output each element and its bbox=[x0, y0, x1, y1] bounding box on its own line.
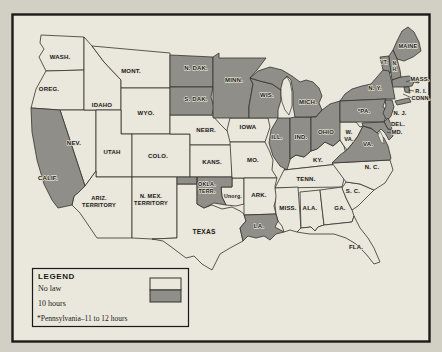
label-nh: N.H. bbox=[392, 61, 397, 72]
state-nmex bbox=[132, 177, 177, 239]
legend-swatch-10-hours bbox=[150, 290, 181, 302]
book-page: WASH.OREG.CALIF.NEV.IDAHOMONT.WYO.UTAHCO… bbox=[0, 0, 442, 352]
label-calif: CALIF. bbox=[38, 175, 58, 181]
label-kans: KANS. bbox=[202, 159, 222, 165]
label-sc: S. C. bbox=[346, 188, 360, 194]
label-mont: MONT. bbox=[121, 68, 141, 74]
legend-item-no-law: No law bbox=[38, 284, 62, 293]
legend-title: LEGEND bbox=[38, 272, 75, 281]
label-conn: CONN. bbox=[411, 95, 430, 101]
state-iowa bbox=[227, 118, 270, 142]
label-miss: MISS. bbox=[279, 205, 296, 211]
label-unorg: Unorg. bbox=[224, 193, 242, 199]
label-okla: OKLA.TERR. bbox=[198, 181, 216, 194]
label-ny: N. Y. bbox=[368, 85, 382, 91]
label-wyo: WYO. bbox=[138, 110, 155, 116]
label-ala: ALA. bbox=[303, 205, 318, 211]
label-mich: MICH. bbox=[299, 99, 317, 105]
label-mo: MO. bbox=[247, 157, 259, 163]
label-vt: VT. bbox=[380, 60, 388, 65]
label-nev: NEV. bbox=[67, 140, 81, 146]
label-ill: ILL. bbox=[271, 134, 283, 140]
label-oreg: OREG. bbox=[39, 86, 59, 92]
label-ga: GA. bbox=[334, 205, 345, 211]
label-wash: WASH. bbox=[50, 54, 71, 60]
label-nc: N. C. bbox=[365, 164, 380, 170]
label-maine: MAINE bbox=[398, 43, 417, 49]
legend-footnote-pennsylvania: *Pennsylvania–11 to 12 hours bbox=[37, 314, 127, 323]
label-ri: R. I. bbox=[415, 88, 427, 94]
us-hours-of-labor-map: WASH.OREG.CALIF.NEV.IDAHOMONT.WYO.UTAHCO… bbox=[0, 0, 442, 352]
label-utah: UTAH bbox=[103, 149, 120, 155]
label-iowa: IOWA bbox=[240, 124, 257, 130]
label-ind: IND. bbox=[295, 134, 308, 140]
label-sdak: S. DAK. bbox=[184, 96, 208, 102]
label-pa: *PA. bbox=[358, 108, 371, 114]
label-nj: N. J. bbox=[393, 110, 406, 116]
label-idaho: IDAHO bbox=[92, 102, 112, 108]
label-de: DEL. bbox=[391, 121, 405, 127]
label-ky: KY. bbox=[313, 157, 323, 163]
label-tenn: TENN. bbox=[297, 176, 316, 182]
label-ohio: OHIO bbox=[318, 129, 334, 135]
state-ndak bbox=[170, 55, 213, 87]
label-colo: COLO. bbox=[148, 153, 168, 159]
label-md: MD. bbox=[391, 129, 402, 135]
label-minn: MINN. bbox=[225, 77, 243, 83]
label-nebr: NEBR. bbox=[196, 127, 216, 133]
label-ark: ARK. bbox=[251, 192, 267, 198]
label-mass: MASS. bbox=[410, 76, 430, 82]
label-wis: WIS. bbox=[260, 92, 274, 98]
label-va: VA. bbox=[363, 141, 373, 147]
label-fla: FLA. bbox=[349, 244, 363, 250]
legend-swatch-no-law bbox=[150, 278, 181, 290]
label-ndak: N. DAK. bbox=[184, 65, 208, 71]
label-la: LA. bbox=[254, 223, 264, 229]
legend-item-10-hours: 10 hours bbox=[38, 299, 66, 308]
state-wash bbox=[39, 35, 84, 71]
label-texas: TEXAS bbox=[193, 228, 216, 235]
